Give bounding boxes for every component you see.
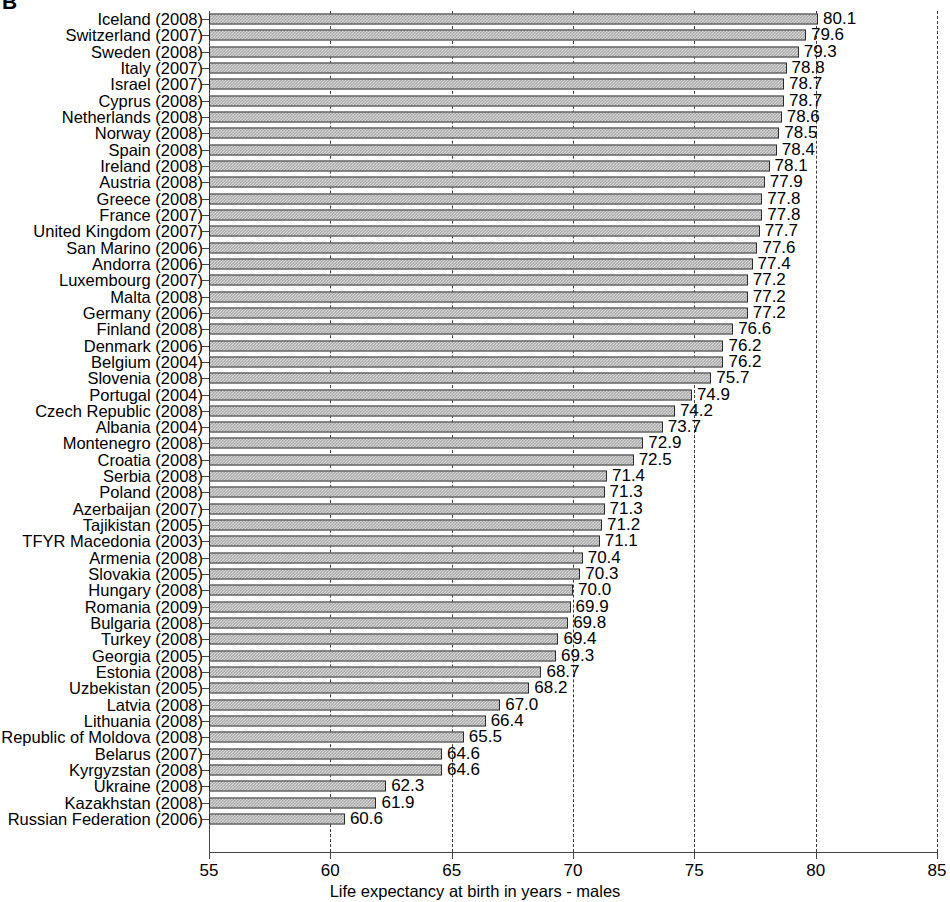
y-axis-tick — [202, 476, 209, 477]
y-axis-tick — [202, 656, 209, 657]
category-label-wrap: Luxembourg (2007) — [0, 272, 203, 288]
category-label-wrap: Tajikistan (2005) — [0, 517, 203, 533]
bar-row: Portugal (2004)74.9 — [0, 386, 950, 402]
category-label-wrap: Albania (2004) — [0, 419, 203, 435]
bar — [209, 422, 663, 433]
y-axis-tick — [202, 705, 209, 706]
x-axis-tick — [816, 852, 817, 859]
y-axis-tick — [202, 215, 209, 216]
y-axis-tick — [202, 737, 209, 738]
bar — [209, 634, 558, 645]
category-label-wrap: Malta (2008) — [0, 288, 203, 304]
bar — [209, 748, 442, 759]
bar — [209, 405, 675, 416]
bar-row: Estonia (2008)68.7 — [0, 664, 950, 680]
category-label-wrap: Finland (2008) — [0, 321, 203, 337]
bar — [209, 79, 784, 90]
bar-row: Georgia (2005)69.3 — [0, 647, 950, 663]
bar — [209, 177, 765, 188]
y-axis-tick — [202, 492, 209, 493]
category-label-wrap: Slovenia (2008) — [0, 370, 203, 386]
x-axis-tick — [330, 852, 331, 859]
y-axis-tick — [202, 558, 209, 559]
y-axis-tick — [202, 68, 209, 69]
x-axis-tick — [694, 852, 695, 859]
y-axis-tick — [202, 395, 209, 396]
category-label-wrap: Slovakia (2005) — [0, 566, 203, 582]
bar — [209, 30, 806, 41]
y-axis-tick — [202, 362, 209, 363]
y-axis-tick — [202, 84, 209, 85]
category-label-wrap: Germany (2006) — [0, 305, 203, 321]
bar-row: Kazakhstan (2008)61.9 — [0, 794, 950, 810]
bar — [209, 487, 605, 498]
x-axis-tick-label: 80 — [806, 861, 825, 880]
category-label-wrap: Denmark (2006) — [0, 337, 203, 353]
y-axis-tick — [202, 541, 209, 542]
bar-row: Belgium (2004)76.2 — [0, 354, 950, 370]
y-axis-tick — [202, 248, 209, 249]
bar-row: Finland (2008)76.6 — [0, 321, 950, 337]
category-label-wrap: Kazakhstan (2008) — [0, 794, 203, 810]
y-axis-tick — [202, 411, 209, 412]
bar — [209, 764, 442, 775]
category-label-wrap: Georgia (2005) — [0, 647, 203, 663]
y-axis-tick — [202, 754, 209, 755]
bar — [209, 552, 583, 563]
category-label-wrap: Serbia (2008) — [0, 468, 203, 484]
y-axis-tick — [202, 525, 209, 526]
y-axis-tick — [202, 672, 209, 673]
y-axis-tick — [202, 819, 209, 820]
y-axis-tick — [202, 133, 209, 134]
bar-row: Bulgaria (2008)69.8 — [0, 615, 950, 631]
y-axis-tick — [202, 574, 209, 575]
y-axis-tick — [202, 35, 209, 36]
bar-row: Romania (2009)69.9 — [0, 599, 950, 615]
bar — [209, 258, 753, 269]
category-label-wrap: Hungary (2008) — [0, 582, 203, 598]
category-label-wrap: Romania (2009) — [0, 599, 203, 615]
bar-row: Montenegro (2008)72.9 — [0, 435, 950, 451]
y-axis-tick — [202, 639, 209, 640]
category-label-wrap: Israel (2007) — [0, 76, 203, 92]
bar-row: Ireland (2008)78.1 — [0, 158, 950, 174]
bar-row: Tajikistan (2005)71.2 — [0, 517, 950, 533]
bar-value-label: 60.6 — [345, 810, 383, 828]
bar — [209, 356, 723, 367]
bar — [209, 617, 568, 628]
y-axis-tick — [202, 803, 209, 804]
category-label-wrap: Spain (2008) — [0, 142, 203, 158]
y-axis-tick — [202, 786, 209, 787]
category-label-wrap: Montenegro (2008) — [0, 435, 203, 451]
bar-row: Latvia (2008)67.0 — [0, 696, 950, 712]
y-axis-tick — [202, 378, 209, 379]
bar — [209, 63, 787, 74]
category-label-wrap: Portugal (2004) — [0, 386, 203, 402]
category-label-wrap: San Marino (2006) — [0, 239, 203, 255]
bar — [209, 340, 723, 351]
y-axis-tick — [202, 52, 209, 53]
bar-row: Serbia (2008)71.4 — [0, 468, 950, 484]
category-label-wrap: Ukraine (2008) — [0, 778, 203, 794]
bar — [209, 454, 634, 465]
y-axis-tick — [202, 346, 209, 347]
bar-row: Greece (2008)77.8 — [0, 191, 950, 207]
x-axis-tick-label: 70 — [564, 861, 583, 880]
bar-row: Denmark (2006)76.2 — [0, 337, 950, 353]
category-label-wrap: Switzerland (2007) — [0, 27, 203, 43]
y-axis-tick — [202, 509, 209, 510]
category-label-wrap: Czech Republic (2008) — [0, 403, 203, 419]
bar — [209, 46, 799, 57]
category-label-wrap: Kyrgyzstan (2008) — [0, 762, 203, 778]
x-axis-tick-label: 85 — [928, 861, 947, 880]
bar-row: San Marino (2006)77.6 — [0, 239, 950, 255]
bar — [209, 275, 748, 286]
category-label-wrap: Norway (2008) — [0, 125, 203, 141]
bar — [209, 144, 777, 155]
bar — [209, 601, 571, 612]
bar — [209, 797, 376, 808]
category-label-wrap: Sweden (2008) — [0, 44, 203, 60]
bar — [209, 699, 500, 710]
x-axis-title: Life expectancy at birth in years - male… — [0, 882, 950, 900]
y-axis-tick — [202, 688, 209, 689]
